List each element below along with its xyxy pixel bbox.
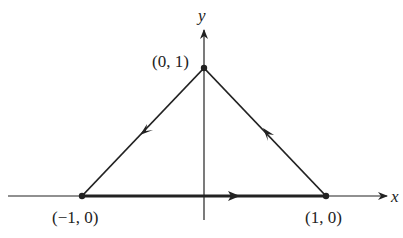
edge-left [82, 68, 204, 196]
edge-right [204, 68, 326, 196]
x-axis-label: x [390, 187, 399, 206]
vertex-left [79, 193, 85, 199]
vertex-right [323, 193, 329, 199]
vertex-top [201, 65, 207, 71]
triangle-path-diagram: y x (0, 1) (−1, 0) (1, 0) [0, 0, 403, 238]
vertex-top-label: (0, 1) [152, 52, 189, 71]
y-axis-label: y [196, 6, 206, 25]
vertex-right-label: (1, 0) [305, 208, 342, 227]
vertex-left-label: (−1, 0) [52, 208, 98, 227]
